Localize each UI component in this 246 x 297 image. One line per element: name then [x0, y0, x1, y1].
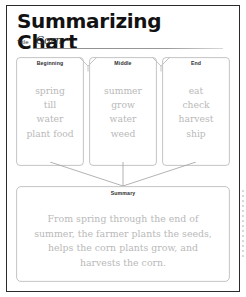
summary-header: Summary — [16, 190, 230, 196]
column-header-end: End — [162, 60, 230, 66]
title-underline — [33, 48, 223, 49]
columns-container: Beginning spring till water plant food M… — [16, 57, 230, 166]
summary-box[interactable]: Summary From spring through the end of s… — [16, 186, 230, 282]
title-label: Title — [17, 39, 29, 45]
word-item: harvest — [162, 112, 230, 126]
column-header-beginning: Beginning — [16, 60, 84, 66]
word-item: check — [162, 98, 230, 112]
column-header-middle: Middle — [89, 60, 157, 66]
word-item: weed — [89, 127, 157, 141]
column-box-end[interactable]: End eat check harvest ship — [162, 57, 230, 166]
column-words-middle: summer grow water weed — [89, 84, 157, 141]
notch-divider-icon — [78, 56, 98, 72]
connector-lines-icon — [16, 162, 230, 188]
notch-divider-icon — [151, 56, 171, 72]
column-box-middle[interactable]: Middle summer grow water weed — [89, 57, 157, 166]
word-item: spring — [16, 84, 84, 98]
word-item: plant food — [16, 127, 84, 141]
column-box-beginning[interactable]: Beginning spring till water plant food — [16, 57, 84, 166]
word-item: water — [89, 112, 157, 126]
column-words-beginning: spring till water plant food — [16, 84, 84, 141]
word-item: water — [16, 112, 84, 126]
summary-text: From spring through the end of summer, t… — [29, 212, 217, 270]
title-input-value[interactable]: Corn — [36, 34, 62, 46]
worksheet-page: Summarizing Chart Title Corn Beginning s… — [0, 0, 246, 297]
word-item: till — [16, 98, 84, 112]
word-item: summer — [89, 84, 157, 98]
column-words-end: eat check harvest ship — [162, 84, 230, 141]
word-item: grow — [89, 98, 157, 112]
title-field-row: Title Corn — [17, 34, 223, 49]
word-item: eat — [162, 84, 230, 98]
word-item: ship — [162, 127, 230, 141]
page-edge-marks — [242, 190, 244, 260]
